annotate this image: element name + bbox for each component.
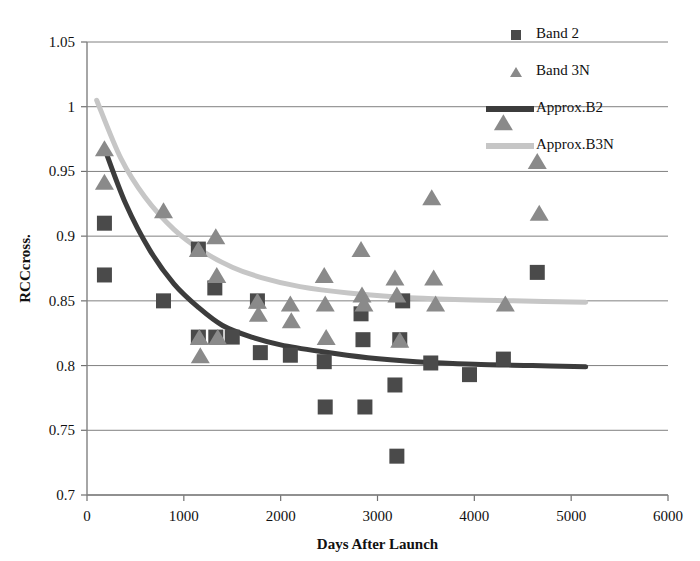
legend-label-approx-b2: Approx.B2: [536, 99, 603, 115]
y-tick-label-0.95: 0.95: [49, 163, 75, 179]
y-tick-label-1.05: 1.05: [49, 34, 75, 50]
y-axis-title: RCCcross.: [17, 234, 33, 303]
chart-figure: 0.70.750.80.850.90.9511.05 0100020003000…: [0, 0, 700, 561]
x-tick-label-1000: 1000: [169, 508, 199, 524]
data-point-band-2: [97, 267, 112, 282]
legend-square-marker-icon: [511, 30, 521, 40]
x-tick-label-3000: 3000: [363, 508, 393, 524]
data-point-band-2: [530, 265, 545, 280]
x-tick-label-6000: 6000: [653, 508, 683, 524]
data-point-band-2: [318, 399, 333, 414]
data-point-band-2: [317, 354, 332, 369]
x-axis-title: Days After Launch: [317, 536, 439, 552]
data-point-band-2: [355, 332, 370, 347]
legend-label-band-3n: Band 3N: [536, 62, 590, 78]
y-tick-label-0.85: 0.85: [49, 293, 75, 309]
x-tick-label-4000: 4000: [459, 508, 489, 524]
data-point-band-2: [462, 367, 477, 382]
data-point-band-2: [97, 216, 112, 231]
data-point-band-2: [225, 330, 240, 345]
y-tick-label-0.8: 0.8: [56, 358, 75, 374]
data-point-band-2: [423, 355, 438, 370]
x-tick-label-2000: 2000: [266, 508, 296, 524]
x-tick-label-0: 0: [83, 508, 91, 524]
y-tick-label-0.75: 0.75: [49, 422, 75, 438]
data-point-band-2: [496, 352, 511, 367]
data-point-band-2: [387, 377, 402, 392]
data-point-band-2: [156, 293, 171, 308]
y-tick-label-0.7: 0.7: [56, 487, 75, 503]
legend-label-approx-b3n: Approx.B3N: [536, 136, 614, 152]
rcccross-vs-days-after-launch-chart: 0.70.750.80.850.90.9511.05 0100020003000…: [0, 0, 700, 561]
data-point-band-2: [283, 348, 298, 363]
data-point-band-2: [357, 399, 372, 414]
y-tick-label-1: 1: [68, 99, 76, 115]
y-tick-label-0.9: 0.9: [56, 228, 75, 244]
x-tick-label-5000: 5000: [556, 508, 586, 524]
legend-label-band-2: Band 2: [536, 25, 579, 41]
data-point-band-2: [253, 345, 268, 360]
data-point-band-2: [389, 449, 404, 464]
